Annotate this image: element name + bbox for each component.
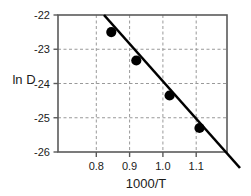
data-point: [194, 123, 204, 133]
x-tick-label: 0.9: [122, 160, 137, 172]
y-tick-label: -26: [34, 146, 50, 158]
y-tick-label: -25: [34, 112, 50, 124]
y-axis-title: ln D: [12, 72, 35, 87]
y-tick-label: -23: [34, 43, 50, 55]
data-point: [165, 90, 175, 100]
x-tick-label: 1.0: [155, 160, 170, 172]
y-tick-label: -24: [34, 78, 50, 90]
x-axis-tick-labels: 0.8 0.9 1.0 1.1: [89, 160, 204, 172]
data-point: [106, 27, 116, 37]
data-point: [131, 55, 141, 65]
arrhenius-plot: -22 -23 -24 -25 -26 0.8 0.9 1.0 1.1 ln D…: [0, 0, 251, 196]
chart-figure: -22 -23 -24 -25 -26 0.8 0.9 1.0 1.1 ln D…: [0, 0, 251, 196]
x-tick-label: 0.8: [89, 160, 104, 172]
y-axis-tick-labels: -22 -23 -24 -25 -26: [34, 9, 50, 158]
x-axis-title: 1000/T: [126, 176, 167, 191]
y-tick-label: -22: [34, 9, 50, 21]
x-tick-label: 1.1: [189, 160, 204, 172]
